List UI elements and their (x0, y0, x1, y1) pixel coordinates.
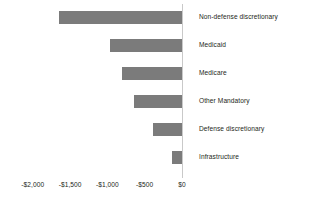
bar-medicare[interactable] (122, 67, 182, 80)
x-tick-label: $0 (178, 181, 186, 188)
bar-row: Non-defense discretionary (0, 4, 310, 32)
bar-label: Infrastructure (199, 150, 239, 163)
bar-label: Non-defense discretionary (199, 10, 278, 23)
bar-label: Other Mandatory (199, 94, 250, 107)
bar-label: Defense discretionary (199, 122, 264, 135)
bar-defense-discretionary[interactable] (153, 123, 182, 136)
plot-area: Non-defense discretionary Medicaid Medic… (0, 0, 310, 178)
x-tick-label: -$2,000 (21, 181, 44, 188)
zero-axis-line (182, 4, 183, 178)
bar-chart: Non-defense discretionary Medicaid Medic… (0, 0, 310, 210)
bar-other-mandatory[interactable] (134, 95, 182, 108)
x-axis: -$2,000 -$1,500 -$1,000 -$500 $0 (0, 181, 310, 195)
x-tick-label: -$1,000 (96, 181, 119, 188)
bar-row: Medicare (0, 60, 310, 88)
bar-row: Defense discretionary (0, 116, 310, 144)
bar-row: Other Mandatory (0, 88, 310, 116)
x-tick-label: -$1,500 (59, 181, 82, 188)
bar-row: Infrastructure (0, 144, 310, 172)
bar-infrastructure[interactable] (172, 151, 182, 164)
bar-row: Medicaid (0, 32, 310, 60)
bar-label: Medicare (199, 66, 227, 79)
bar-label: Medicaid (199, 38, 226, 51)
bar-medicaid[interactable] (110, 39, 182, 52)
bar-non-defense-discretionary[interactable] (59, 11, 182, 24)
x-tick-label: -$500 (136, 181, 153, 188)
